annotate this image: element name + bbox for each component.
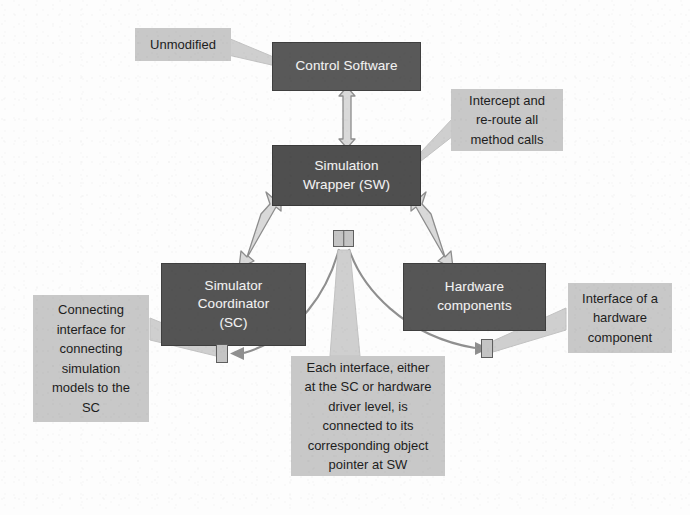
callout-unmodified-text: Unmodified (143, 35, 223, 55)
node-simulator-coordinator[interactable]: Simulator Coordinator (SC) (161, 263, 306, 346)
node-control-software[interactable]: Control Software (272, 42, 421, 91)
interface-square-hardware-component[interactable] (481, 339, 493, 358)
callout-connecting-line3: connecting (45, 339, 137, 359)
callout-each-interface: Each interface, either at the SC or hard… (291, 356, 445, 476)
node-simulator-coordinator-label-line2: Coordinator (192, 295, 276, 314)
callout-hardware-component-interface: Interface of a hardware component (568, 283, 672, 353)
callout-connecting-line2: interface for (45, 320, 137, 340)
diagram-canvas: Control Software Simulation Wrapper (SW)… (0, 0, 690, 515)
node-simulator-coordinator-label-line1: Simulator (192, 277, 276, 296)
callout-intercept-line2: re-route all (462, 110, 552, 130)
node-simulation-wrapper-label-line2: Wrapper (SW) (297, 176, 396, 195)
callout-each-interface-line3: driver level, is (297, 397, 438, 417)
unmodified-leader (228, 38, 276, 66)
node-simulation-wrapper[interactable]: Simulation Wrapper (SW) (272, 145, 421, 206)
callout-each-interface-line2: at the SC or hardware (297, 377, 438, 397)
callout-intercept-line1: Intercept and (462, 91, 552, 111)
node-hardware-components-label-line2: components (431, 297, 518, 316)
callout-intercept-and-reroute: Intercept and re-route all method calls (451, 89, 563, 151)
callout-connecting-line5: models to the (45, 378, 137, 398)
node-control-software-label: Control Software (289, 57, 403, 76)
interface-square-sw-object-pointer[interactable] (333, 230, 354, 247)
callout-each-interface-line5: corresponding object (297, 436, 438, 456)
connector-control-software-simulation-wrapper (339, 87, 355, 148)
node-simulation-wrapper-label-line1: Simulation (297, 157, 396, 176)
callout-each-interface-line4: connected to its (297, 416, 438, 436)
interface-square-simulator-coordinator[interactable] (216, 344, 228, 363)
callout-each-interface-line6: pointer at SW (297, 455, 438, 475)
callout-hw-interface-line2: hardware (575, 308, 665, 328)
callout-connecting-line4: simulation (45, 359, 137, 379)
callout-connecting-line1: Connecting (45, 300, 137, 320)
callout-intercept-line3: method calls (462, 130, 552, 150)
intercept-leader (421, 118, 453, 161)
node-hardware-components-label-line1: Hardware (431, 278, 518, 297)
callout-each-interface-line1: Each interface, either (297, 358, 438, 378)
callout-unmodified: Unmodified (135, 28, 231, 61)
node-hardware-components[interactable]: Hardware components (403, 263, 546, 331)
callout-hw-interface-line1: Interface of a (575, 289, 665, 309)
callout-hw-interface-line3: component (575, 328, 665, 348)
node-simulator-coordinator-label-line3: (SC) (192, 314, 276, 333)
callout-connecting-line6: SC (45, 398, 137, 418)
callout-connecting-interface: Connecting interface for connecting simu… (33, 295, 149, 422)
